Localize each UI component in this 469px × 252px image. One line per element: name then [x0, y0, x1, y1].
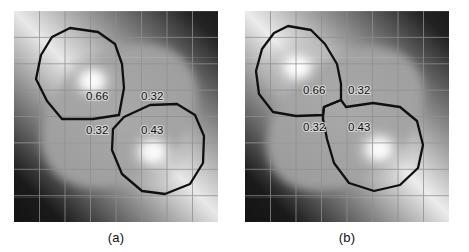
image-panel-a: 0.66 0.32 0.32 0.43: [14, 11, 218, 222]
panel-a-graphic: 0.66 0.32 0.32 0.43: [14, 11, 218, 222]
region-label-043: 0.43: [348, 121, 370, 133]
figure-container: 0.66 0.32 0.32 0.43: [0, 0, 469, 252]
region-label-043: 0.43: [141, 124, 163, 136]
image-panel-b: 0.66 0.32 0.32 0.43: [245, 11, 449, 222]
region-label-032-lower: 0.32: [86, 124, 108, 136]
region-label-066: 0.66: [303, 84, 325, 96]
region-label-032-upper: 0.32: [141, 90, 163, 102]
region-label-066: 0.66: [86, 90, 108, 102]
panel-caption-b: (b): [245, 230, 449, 245]
panel-b-graphic: 0.66 0.32 0.32 0.43: [245, 11, 449, 222]
region-label-032-lower: 0.32: [303, 121, 325, 133]
panel-caption-a: (a): [14, 230, 218, 245]
region-label-032-upper: 0.32: [348, 84, 370, 96]
